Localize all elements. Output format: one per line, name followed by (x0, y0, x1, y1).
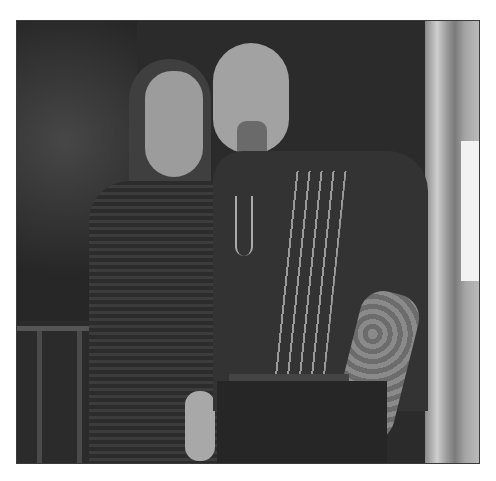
pendant-necklace (235, 196, 253, 256)
window-pane (461, 141, 479, 281)
woman-hand (185, 391, 215, 461)
railing-post (77, 331, 82, 464)
man-pants (217, 381, 387, 464)
photograph (16, 20, 480, 464)
woman-face (145, 71, 203, 177)
railing-post (37, 331, 42, 464)
